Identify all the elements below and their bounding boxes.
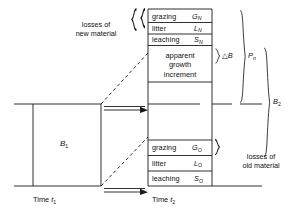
new-material-brace-inner xyxy=(141,9,145,27)
pn-label: Pn xyxy=(248,52,256,60)
axis-label-time-t1: Time t1 xyxy=(33,196,56,204)
old-loss-row-litter-name: litter xyxy=(152,159,166,168)
old-loss-row-litter-symbol: LO xyxy=(194,159,202,168)
delta-b-label: △B xyxy=(222,52,233,60)
lower-arrow-head xyxy=(140,189,148,195)
new-loss-row-litter: litter LN xyxy=(148,23,212,35)
new-loss-row-leaching-name: leaching xyxy=(152,35,180,44)
old-material-group-label-line1: losses of xyxy=(224,152,298,161)
new-material-group-label-line2: new material xyxy=(62,29,130,38)
b2-label: B2 xyxy=(273,98,281,106)
projection-line-lower xyxy=(101,137,148,186)
axis-label-time-t2: Time t2 xyxy=(152,196,175,204)
old-loss-row-leaching-symbol: SO xyxy=(194,174,203,183)
growth-increment-line2: growth xyxy=(148,60,212,69)
new-material-group-label: losses of new material xyxy=(62,20,130,38)
old-loss-row-grazing-name: grazing xyxy=(152,143,176,152)
new-loss-row-grazing-symbol: GN xyxy=(192,12,202,21)
old-loss-row-leaching-name: leaching xyxy=(152,174,180,183)
old-material-group-label-line2: old material xyxy=(224,161,298,170)
diagram-canvas: losses of new material grazing GN litter… xyxy=(0,0,305,213)
pn-bracket xyxy=(240,11,245,103)
new-material-brace-outer xyxy=(132,9,137,30)
old-loss-row-litter: litter LO xyxy=(148,156,212,172)
new-material-group-label-line1: losses of xyxy=(62,20,130,29)
new-loss-row-leaching: leaching SN xyxy=(148,34,212,46)
old-material-brace xyxy=(215,139,219,154)
growth-increment-line1: apparent xyxy=(148,51,212,60)
growth-increment-line3: increment xyxy=(148,70,212,79)
old-material-group-label: losses of old material xyxy=(224,152,298,170)
old-loss-row-grazing: grazing GO xyxy=(148,140,212,156)
b1-label: B1 xyxy=(60,140,68,148)
b2-bracket xyxy=(264,48,270,157)
old-loss-row-leaching: leaching SO xyxy=(148,171,212,186)
projection-line-upper xyxy=(101,53,148,104)
new-loss-row-litter-name: litter xyxy=(152,24,166,33)
new-loss-row-litter-symbol: LN xyxy=(194,24,202,33)
delta-b-brace xyxy=(216,49,220,63)
old-loss-row-grazing-symbol: GO xyxy=(192,143,202,152)
growth-increment-label: apparent growth increment xyxy=(148,51,212,79)
upper-arrow-head xyxy=(140,107,148,113)
new-loss-row-leaching-symbol: SN xyxy=(194,35,203,44)
new-loss-row-grazing-name: grazing xyxy=(152,12,176,21)
new-loss-row-grazing: grazing GN xyxy=(148,10,212,23)
